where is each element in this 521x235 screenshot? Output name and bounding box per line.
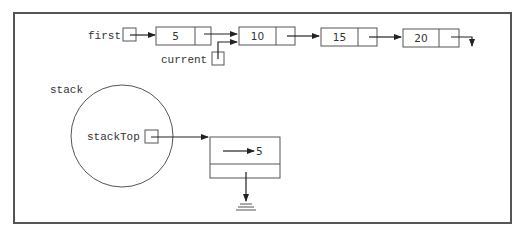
stack-label: stack <box>50 84 83 96</box>
first-label: first <box>88 30 121 42</box>
diagram-canvas: first 5 current 10 15 <box>0 0 521 235</box>
stack-node: 5 <box>210 137 280 201</box>
node-box <box>239 27 295 45</box>
stack-node-value: 5 <box>256 145 263 157</box>
list-node: 10 <box>239 27 319 45</box>
node-box <box>403 29 459 47</box>
list-node: 15 <box>321 28 401 46</box>
current-pointer: current <box>161 42 237 66</box>
node-value: 10 <box>251 30 264 42</box>
node-value: 5 <box>172 30 179 42</box>
stack-node-box <box>210 137 280 178</box>
list-node: 20 <box>403 29 472 47</box>
ground-null-icon <box>236 204 256 210</box>
stacktop-label: stackTop <box>87 131 140 143</box>
node-value: 15 <box>333 31 346 43</box>
first-pointer: first <box>88 28 155 42</box>
node-value: 20 <box>414 32 427 44</box>
node-box <box>156 27 211 45</box>
node-box <box>321 28 377 46</box>
current-label: current <box>161 54 207 66</box>
